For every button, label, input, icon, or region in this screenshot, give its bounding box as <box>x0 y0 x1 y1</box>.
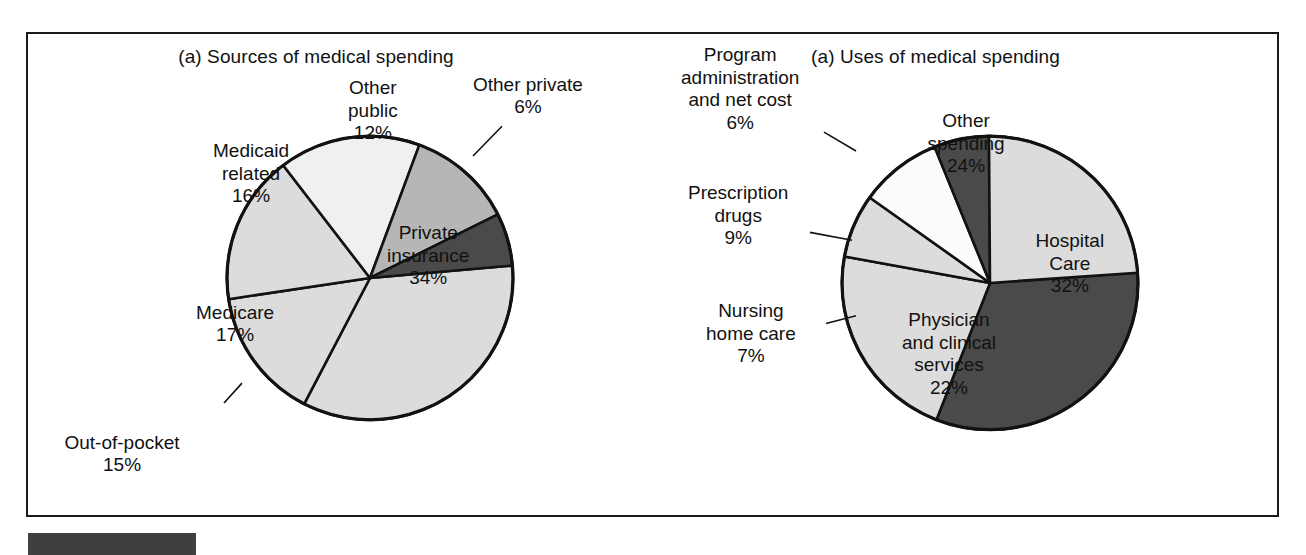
pie-slice-label: Other spending 24% <box>928 110 1005 178</box>
pie-slice-label: Private insurance 34% <box>387 222 469 290</box>
pie-slice-label: Hospital Care 32% <box>1036 230 1105 298</box>
figure-frame: (a) Sources of medical spending Private … <box>26 32 1279 517</box>
panel-uses-of-medical-spending: (a) Uses of medical spending Hospital Ca… <box>628 34 1279 515</box>
pie-slice-label: Out-of-pocket 15% <box>65 432 180 477</box>
pie-slice-label: Prescription drugs 9% <box>688 182 788 250</box>
pie-slice-label: Physician and clinical services 22% <box>902 309 996 399</box>
bottom-marker-bar <box>28 533 196 555</box>
panel-sources-of-medical-spending: (a) Sources of medical spending Private … <box>28 34 628 515</box>
pie-slice-label: Other private 6% <box>473 74 583 119</box>
pie-slice-label: Nursing home care 7% <box>706 300 796 368</box>
pie-slice-label: Medicaid related 16% <box>213 140 289 208</box>
pie-slice-label: Medicare 17% <box>196 302 274 347</box>
pie-slice-label: Program administration and net cost 6% <box>681 44 799 134</box>
leader-line <box>224 383 242 403</box>
leader-line <box>824 132 856 151</box>
leader-line <box>810 232 852 240</box>
leader-line <box>473 126 502 156</box>
pie-slice-label: Other public 12% <box>348 77 398 145</box>
